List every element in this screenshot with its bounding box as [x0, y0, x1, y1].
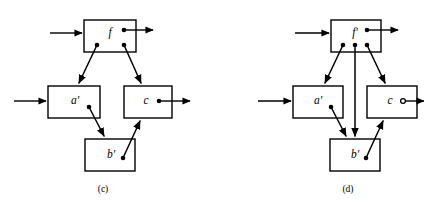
port-dot-f-low-l[interactable]	[95, 43, 100, 48]
port-ring-c-out[interactable]	[401, 99, 406, 104]
block-label-b1: b'	[107, 148, 116, 160]
block-label-b1: b'	[351, 148, 360, 160]
port-dot-b1-out[interactable]	[121, 156, 126, 161]
port-dot-f1-out[interactable]	[365, 28, 370, 33]
port-dot-a1-out[interactable]	[87, 105, 92, 110]
port-dot-f1-low-m[interactable]	[353, 43, 358, 48]
panel-d: f'a'cb'(d)	[258, 20, 424, 195]
port-dot-f1-low-l[interactable]	[341, 43, 346, 48]
caption-panel-c: (c)	[98, 184, 109, 195]
port-dot-b1-out[interactable]	[364, 156, 369, 161]
caption-panel-d: (d)	[342, 184, 353, 195]
port-dot-a1-out[interactable]	[329, 105, 334, 110]
panels-layer: fa'cb'(c)f'a'cb'(d)	[14, 20, 424, 195]
block-diagram-figure: fa'cb'(c)f'a'cb'(d)	[0, 0, 424, 205]
block-label-c: c	[387, 94, 392, 106]
port-dot-c-out[interactable]	[157, 99, 162, 104]
port-dot-f-low-r[interactable]	[122, 43, 127, 48]
block-label-a1: a'	[314, 94, 323, 106]
block-label-f1: f'	[352, 26, 358, 39]
panel-c: fa'cb'(c)	[14, 20, 190, 195]
figure-container: fa'cb'(c)f'a'cb'(d)	[0, 0, 424, 205]
port-dot-f-out[interactable]	[122, 28, 127, 33]
port-dot-f1-low-r[interactable]	[365, 43, 370, 48]
block-label-c: c	[143, 94, 148, 106]
block-label-a1: a'	[71, 94, 80, 106]
